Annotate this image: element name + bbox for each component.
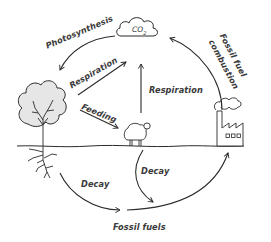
co2-text: CO [132, 25, 143, 34]
diagram-drawing [0, 0, 271, 242]
decay-sheep-arrow [136, 150, 153, 202]
ground-line [17, 145, 244, 146]
co2-label: CO2 [132, 26, 147, 36]
factory-icon [214, 98, 243, 146]
fossil-fuels-label: Fossil fuels [113, 223, 166, 231]
decay-tree-label: Decay [81, 180, 109, 188]
fossil-to-factory-arrow [127, 153, 228, 210]
sheep-icon [124, 123, 150, 146]
carbon-cycle-diagram: CO2 Photosynthesis Respiration Feeding R… [0, 0, 271, 242]
co2-subscript: 2 [143, 30, 146, 36]
tree-icon [18, 81, 66, 178]
respiration-sheep-label: Respiration [149, 86, 203, 94]
decay-sheep-label: Decay [141, 167, 169, 175]
